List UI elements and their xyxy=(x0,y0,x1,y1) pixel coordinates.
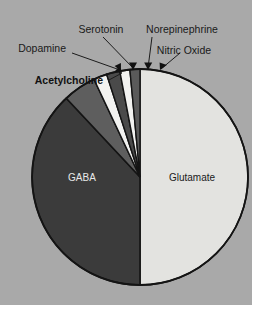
leader-line-serotonin xyxy=(103,37,133,68)
callout-label-nitric-oxide: Nitric Oxide xyxy=(157,44,211,56)
pie-slices xyxy=(32,69,248,285)
pie-chart-svg: GABA Glutamate xyxy=(0,0,280,324)
arrowhead-nitric-oxide-icon xyxy=(160,62,167,70)
callout-label-serotonin: Serotonin xyxy=(79,23,124,35)
callout-label-dopamine: Dopamine xyxy=(18,42,66,54)
slice-label-glutamate: Glutamate xyxy=(169,172,216,183)
callout-label-acetylcholine: Acetylcholine xyxy=(35,74,103,86)
leader-line-dopamine xyxy=(72,53,120,70)
pie-chart-figure: GABA Glutamate xyxy=(0,0,280,324)
callout-label-norepinephrine: Norepinephrine xyxy=(146,23,218,35)
slice-label-gaba: GABA xyxy=(68,172,96,183)
